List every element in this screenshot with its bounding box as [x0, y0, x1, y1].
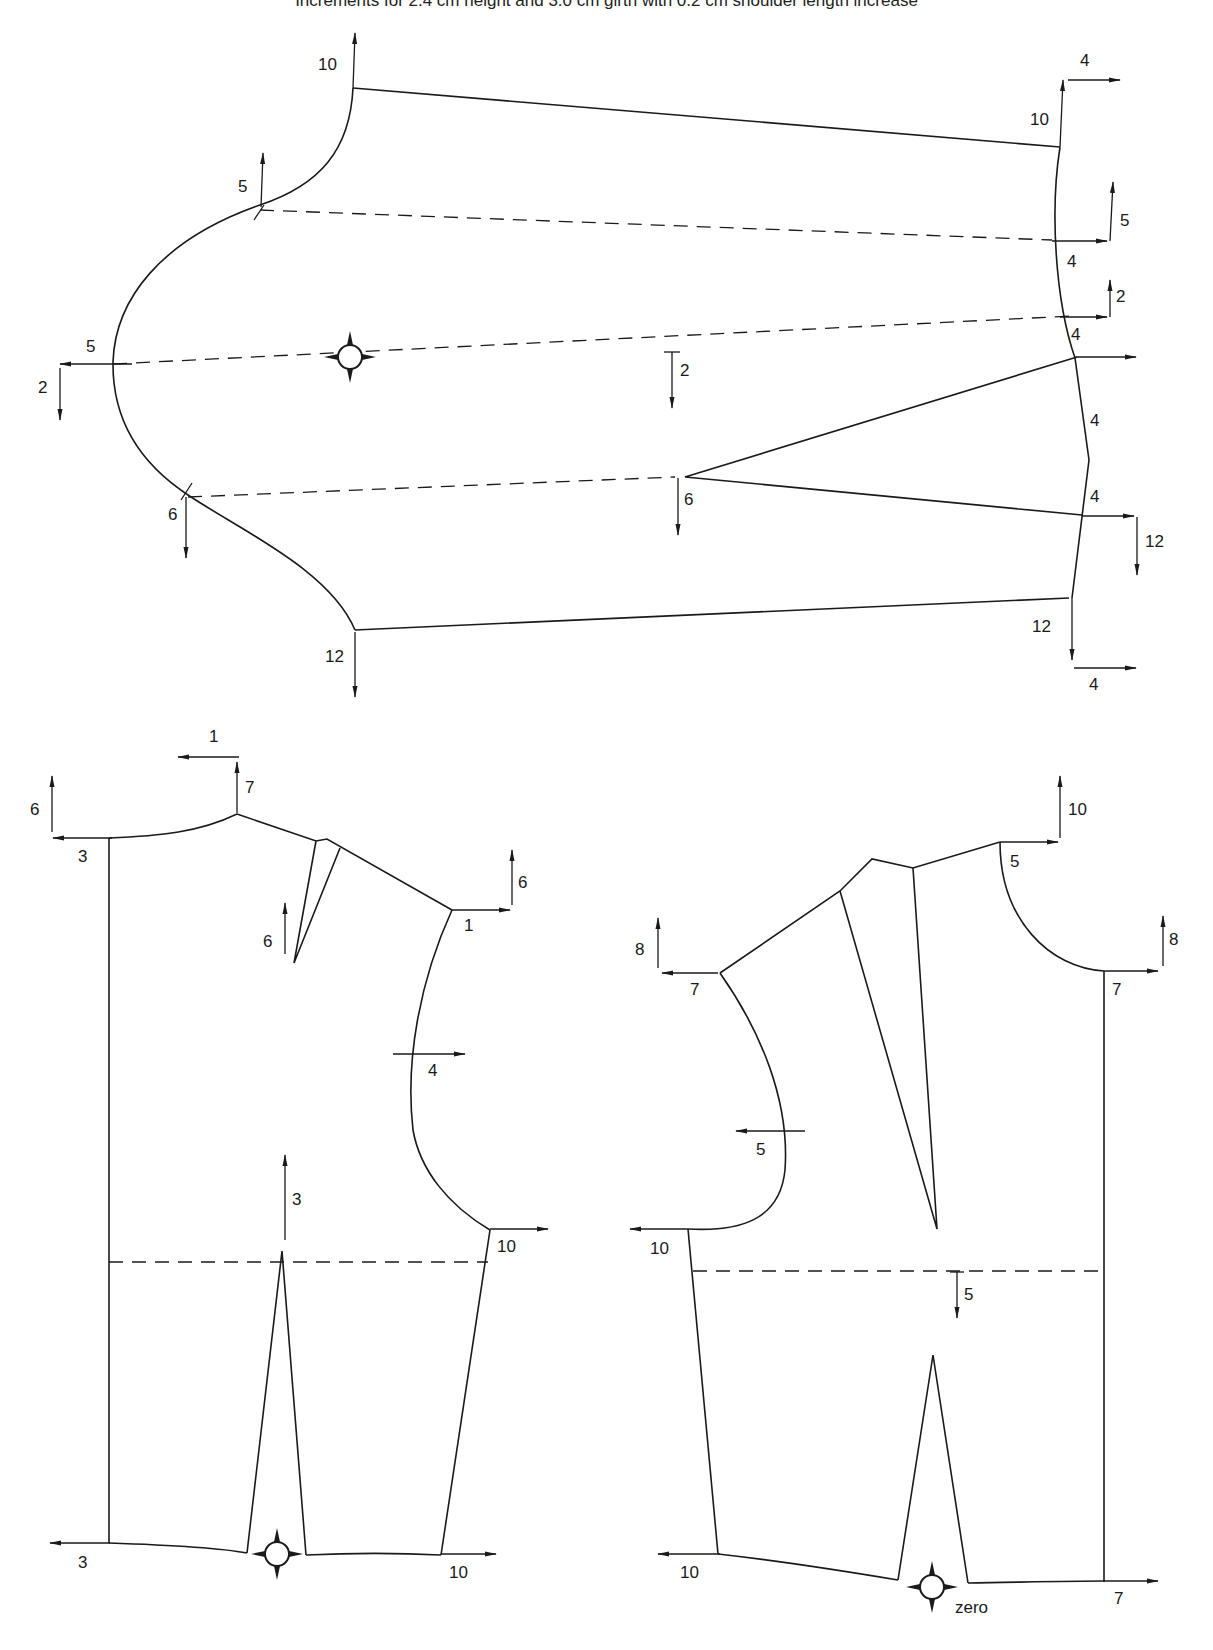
- front-label: 5: [756, 1140, 765, 1159]
- back-waist-dart: [247, 1251, 306, 1555]
- sleeve-label: 6: [684, 490, 693, 509]
- back-shoulder-dart: [294, 841, 340, 963]
- pattern-drawing: 10 5 5 2 2 6 6 12 10 4 4 5 4 2 4 4 12 12…: [0, 0, 1213, 1650]
- back-label: 6: [30, 800, 39, 819]
- sleeve-label: 12: [1032, 617, 1051, 636]
- sleeve-front-guide: [260, 210, 1052, 240]
- back-label: 4: [428, 1061, 437, 1080]
- front-label: 5: [964, 1285, 973, 1304]
- sleeve-label: 5: [86, 337, 95, 356]
- back-label: 3: [78, 847, 87, 866]
- sleeve-label: 2: [1116, 287, 1125, 306]
- front-label: 10: [1068, 800, 1087, 819]
- sleeve-label: 4: [1089, 675, 1098, 694]
- front-label: 8: [1169, 930, 1178, 949]
- sleeve-label: 10: [1030, 110, 1049, 129]
- front-zero-point-icon: [906, 1561, 958, 1613]
- sleeve-label: 5: [1120, 211, 1129, 230]
- front-bodice-piece: 10 5 8 7 8 7 5 10 5 10 7 zero: [630, 776, 1178, 1617]
- sleeve-label: 10: [318, 55, 337, 74]
- sleeve-label: 4: [1067, 252, 1076, 271]
- sleeve-label: 4: [1090, 487, 1099, 506]
- sleeve-top-seam: [353, 88, 1060, 147]
- front-label: 8: [635, 940, 644, 959]
- sleeve-label: 12: [325, 647, 344, 666]
- back-label: 6: [518, 873, 527, 892]
- sleeve-label: 2: [680, 361, 689, 380]
- back-side-seam: [441, 1230, 490, 1555]
- sleeve-label: 6: [168, 505, 177, 524]
- back-label: 7: [245, 778, 254, 797]
- sleeve-piece: 10 5 5 2 2 6 6 12 10 4 4 5 4 2 4 4 12 12…: [38, 33, 1164, 697]
- back-zero-point-icon: [251, 1528, 303, 1580]
- back-label: 10: [449, 1563, 468, 1582]
- back-label: 1: [464, 916, 473, 935]
- sleeve-label: 4: [1071, 325, 1080, 344]
- back-hem-right: [306, 1554, 441, 1556]
- sleeve-wrist-edge: [1055, 147, 1089, 598]
- front-hem-right: [968, 1581, 1104, 1583]
- back-neckline: [109, 814, 237, 838]
- front-hem-left: [718, 1554, 898, 1580]
- front-label: 10: [650, 1239, 669, 1258]
- front-label: 5: [1010, 852, 1019, 871]
- front-shoulder-seam: [720, 842, 1000, 973]
- sleeve-label: 2: [38, 378, 47, 397]
- elbow-dart: [685, 357, 1082, 515]
- sleeve-label: 4: [1080, 51, 1089, 70]
- front-label: 7: [1112, 980, 1121, 999]
- back-shoulder-seam: [237, 814, 452, 910]
- back-label: 3: [292, 1190, 301, 1209]
- back-label: 1: [209, 727, 218, 746]
- sleeve-zero-point-icon: [324, 331, 376, 383]
- back-label: 3: [78, 1553, 87, 1572]
- sleeve-back-guide: [188, 477, 675, 497]
- sleeve-label: 5: [238, 177, 247, 196]
- front-armhole: [688, 973, 786, 1229]
- back-armhole: [411, 910, 490, 1230]
- front-waist-dart: [898, 1355, 968, 1583]
- front-shoulder-dart: [840, 868, 937, 1229]
- front-label: zero: [955, 1598, 988, 1617]
- sleeve-label: 12: [1145, 532, 1164, 551]
- back-hem-left: [109, 1543, 247, 1553]
- front-label: 7: [1114, 1589, 1123, 1608]
- sleeve-label: 4: [1090, 411, 1099, 430]
- front-side-seam: [688, 1229, 718, 1554]
- front-label: 10: [680, 1563, 699, 1582]
- back-label: 6: [263, 932, 272, 951]
- back-bodice-piece: 6 3 1 7 6 6 1 4 3 10 3 10: [30, 727, 548, 1582]
- sleeve-bottom-seam: [355, 598, 1069, 630]
- notch-ticks: [181, 205, 264, 500]
- sleeve-cap-curve: [113, 88, 355, 630]
- back-label: 10: [497, 1237, 516, 1256]
- front-label: 7: [690, 980, 699, 999]
- sleeve-center-line: [113, 316, 1072, 364]
